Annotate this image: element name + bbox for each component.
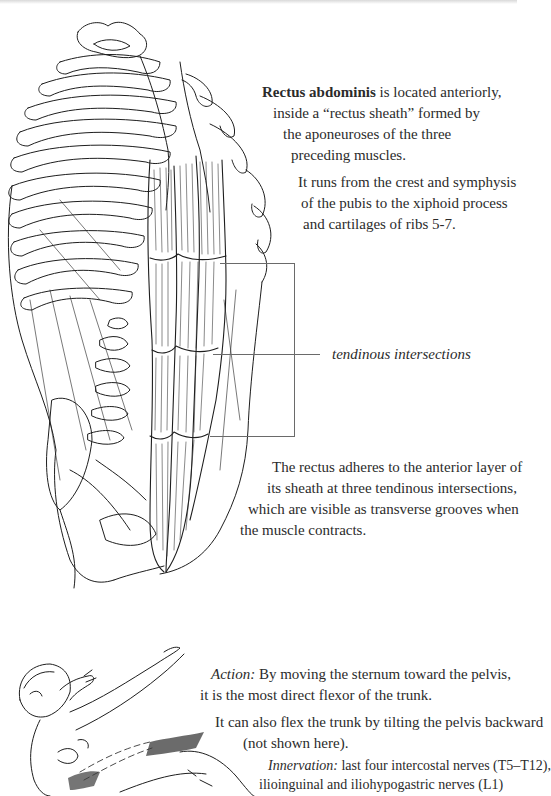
action-line-1: Action: By moving the sternum toward the… (211, 664, 511, 685)
pelvis-tilt-paragraph: It can also flex the trunk by tilting th… (215, 712, 543, 754)
innervation-line-1: Innervation: last four intercostal nerve… (268, 756, 551, 775)
innervation-paragraph: Innervation: last four intercostal nerve… (258, 756, 551, 794)
action-label: Action: (211, 666, 255, 682)
innervation-label: Innervation: (268, 758, 338, 773)
pelvis-line-1: It can also flex the trunk by tilting th… (215, 712, 543, 733)
pelvis-line-2: (not shown here). (243, 733, 543, 754)
action-line-2: it is the most direct flexor of the trun… (200, 685, 511, 706)
innervation-line-2: ilioinguinal and iliohypogastric nerves … (259, 775, 551, 794)
action-paragraph: Action: By moving the sternum toward the… (200, 664, 511, 706)
